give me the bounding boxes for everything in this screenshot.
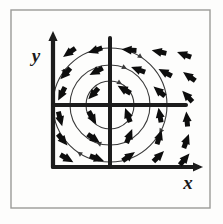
y-axis-label: y: [30, 45, 41, 66]
x-axis-label: x: [182, 172, 193, 193]
diagram-canvas: y x: [0, 0, 223, 224]
vector-field-figure: y x: [0, 0, 223, 224]
